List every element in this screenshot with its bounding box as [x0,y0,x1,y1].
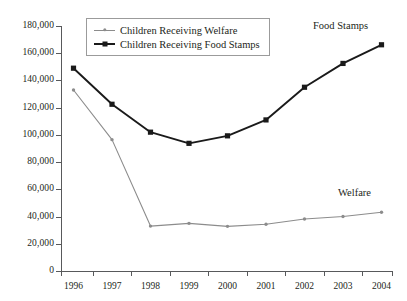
data-point-food-stamps-1999 [186,141,191,146]
data-point-food-stamps-2004 [379,42,384,47]
data-point-welfare-2002 [303,217,306,220]
data-point-welfare-2004 [380,211,383,214]
legend-key-welfare-icon [94,25,115,35]
series-line-food-stamps [74,45,382,144]
data-point-food-stamps-1998 [148,130,153,135]
annotation-welfare: Welfare [338,187,371,198]
legend-item-welfare: Children Receiving Welfare [94,23,260,37]
data-point-welfare-1998 [149,224,152,227]
data-point-welfare-1996 [72,88,75,91]
data-point-food-stamps-2001 [263,117,268,122]
data-point-food-stamps-2003 [340,61,345,66]
data-point-welfare-1997 [110,138,113,141]
annotation-food-stamps: Food Stamps [313,20,368,31]
data-point-food-stamps-1996 [71,66,76,71]
data-point-welfare-2001 [264,222,267,225]
data-point-welfare-2003 [341,215,344,218]
data-point-food-stamps-1997 [109,102,114,107]
data-point-food-stamps-2000 [225,133,230,138]
legend-key-food-stamps-icon [94,39,115,49]
data-point-food-stamps-2002 [302,85,307,90]
legend-label-food-stamps: Children Receiving Food Stamps [120,39,260,50]
line-chart: 020,00040,00060,00080,000100,000120,0001… [0,0,407,301]
legend-item-food-stamps: Children Receiving Food Stamps [94,37,260,51]
legend-label-welfare: Children Receiving Welfare [120,25,237,36]
data-point-welfare-1999 [187,222,190,225]
legend: Children Receiving Welfare Children Rece… [86,18,270,56]
data-point-welfare-2000 [226,225,229,228]
